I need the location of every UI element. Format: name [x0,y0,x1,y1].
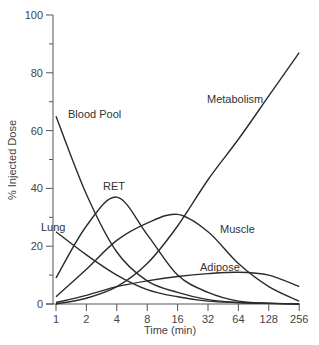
x-tick-label: 1 [53,313,59,325]
label-adipose: Adipose [200,261,240,273]
x-tick-label: 2 [83,313,89,325]
y-tick-label: 0 [37,298,43,310]
y-axis-title: % Injected Dose [6,120,18,200]
y-tick-label: 40 [31,182,43,194]
y-tick-label: 20 [31,240,43,252]
curve-metabolism [56,53,299,304]
x-tick-label: 32 [202,313,214,325]
y-tick-label: 60 [31,125,43,137]
y-tick-label: 80 [31,67,43,79]
label-ret: RET [103,180,125,192]
x-tick-label: 4 [114,313,120,325]
x-tick-label: 64 [232,313,244,325]
label-lung: Lung [41,221,65,233]
pharmacokinetics-chart: 0204060801001248163264128256 Blood Pool … [0,0,319,345]
x-axis-title: Time (min) [144,324,196,336]
curve-ret [56,197,299,304]
label-blood-pool: Blood Pool [68,108,121,120]
x-tick-label: 256 [290,313,308,325]
x-tick-label: 128 [260,313,278,325]
label-metabolism: Metabolism [207,93,263,105]
curves [56,53,299,304]
curve-adipose [56,272,299,302]
y-tick-label: 100 [25,9,43,21]
label-muscle: Muscle [220,223,255,235]
curve-muscle [56,214,299,301]
